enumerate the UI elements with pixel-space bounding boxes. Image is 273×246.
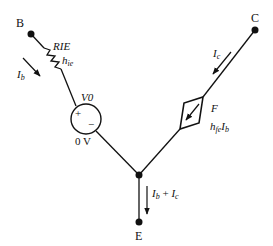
node-e-dot[interactable]	[136, 219, 143, 226]
collector-current-label: Ic	[212, 47, 221, 61]
wire-v0-junction	[96, 131, 139, 175]
wire-resistor-v0	[61, 69, 76, 106]
v0-name: V0	[81, 91, 94, 103]
dependent-source-expr: hfeIb	[210, 120, 229, 134]
base-current-label: Ib	[16, 68, 25, 82]
v0-plus: +	[75, 107, 81, 119]
node-e-label: E	[135, 229, 142, 243]
v0-minus: −	[88, 118, 94, 130]
wire-diamond-junction	[139, 129, 180, 175]
node-b-label: B	[16, 16, 24, 30]
emitter-current-label: Ib + Ic	[151, 187, 179, 201]
v0-value: 0 V	[75, 135, 91, 147]
node-c-label: C	[251, 11, 259, 25]
resistor-param: hie	[62, 54, 74, 68]
wire-c-diamond	[203, 30, 255, 97]
resistor-name: RIE	[52, 40, 70, 52]
wire-b-resistor	[31, 34, 44, 48]
bjt-small-signal-circuit: B RIE hie Ib + − V0 0 V C Ic F hfeIb E I…	[0, 0, 273, 246]
base-current-arrow	[23, 58, 40, 76]
dependent-source-name: F	[210, 102, 218, 114]
